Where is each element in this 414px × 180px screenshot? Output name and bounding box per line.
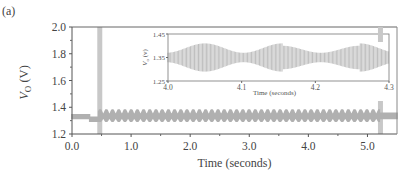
inset-x-tick-label: 4.0 [163,83,173,92]
x-tick-label: 4.0 [301,140,316,152]
y-tick-label: 1.2 [52,128,67,140]
chart: 1.21.41.61.82.00.01.02.03.04.05.0Time (s… [0,0,414,180]
x-tick-label: 5.0 [360,140,375,152]
main-series [72,109,397,122]
y-tick-label: 1.4 [52,101,67,113]
transition-band-over-inset [378,27,383,42]
y-tick-label: 1.8 [52,48,67,60]
x-tick-label: 1.0 [124,140,139,152]
inset-y-tick-label: 1.45 [153,31,166,39]
x-tick-label: 2.0 [183,140,198,152]
inset-x-tick-label: 4.1 [237,83,247,92]
inset-y-axis-label: Vo (v) [141,48,150,65]
x-tick-label: 0.0 [65,140,80,152]
inset-y-tick-label: 1.35 [153,54,166,62]
inset-chart: 1.251.351.454.04.14.24.3Time (seconds)Vo… [138,27,395,101]
inset-voltage-trace [168,43,388,71]
y-axis-label: VO (V) [17,65,33,100]
inset-x-axis-label: Time (seconds) [253,89,297,97]
y-tick-label: 1.6 [52,75,67,87]
inset-x-tick-label: 4.2 [311,83,321,92]
x-axis-label: Time (seconds) [198,156,272,170]
inset-x-tick-label: 4.3 [384,83,394,92]
y-tick-label: 2.0 [52,21,67,33]
x-tick-label: 3.0 [242,140,257,152]
voltage-trace [72,109,397,122]
